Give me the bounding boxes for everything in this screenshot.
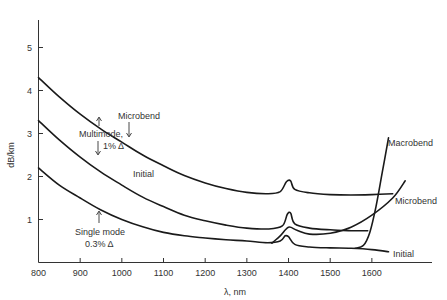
y-tick-label: 5 — [27, 43, 32, 53]
y-tick-label: 3 — [27, 129, 32, 139]
annotation-sm-macrobend: Macrobend — [388, 138, 433, 148]
y-tick-label: 4 — [27, 86, 32, 96]
y-tick-label: 1 — [27, 215, 32, 225]
annotation-single-mode-delta: 0.3% Δ — [85, 239, 114, 249]
attenuation-chart: 12345 8009001000110012001300140015001600… — [0, 0, 447, 300]
x-tick-label: 1000 — [112, 268, 132, 278]
annotation-multimode: Multimode, — [79, 129, 123, 139]
x-tick-label: 1500 — [320, 268, 340, 278]
y-axis-ticks: 12345 — [27, 43, 43, 225]
annotation-single-mode: Single mode — [75, 227, 125, 237]
curves — [39, 78, 406, 252]
annotation-multimode-delta: 1% Δ — [103, 141, 124, 151]
y-tick-label: 2 — [27, 172, 32, 182]
annotation-sm-microbend: Microbend — [395, 196, 437, 206]
series-curve-4 — [355, 138, 388, 249]
x-axis-ticks: 8009001000110012001300140015001600 — [31, 258, 382, 278]
annotation-mm-microbend: Microbend — [118, 111, 160, 121]
x-tick-label: 1400 — [279, 268, 299, 278]
x-tick-label: 1300 — [237, 268, 257, 278]
x-tick-label: 900 — [73, 268, 88, 278]
series-curve-3 — [272, 181, 405, 243]
x-tick-label: 1200 — [195, 268, 215, 278]
x-tick-label: 800 — [31, 268, 46, 278]
annotation-sm-initial: Initial — [393, 249, 414, 259]
y-axis-label: dB/km — [6, 142, 16, 168]
x-tick-label: 1100 — [154, 268, 173, 278]
annotation-mm-initial: Initial — [133, 169, 154, 179]
x-axis-label: λ, nm — [224, 287, 246, 297]
x-tick-label: 1600 — [362, 268, 382, 278]
